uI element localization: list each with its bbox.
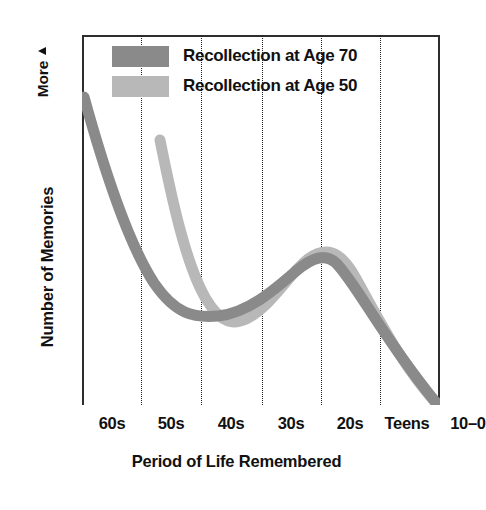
x-tick-40s: 40s (218, 414, 245, 433)
legend-label-age-50: Recollection at Age 50 (183, 76, 357, 96)
x-tick-60s: 60s (99, 414, 126, 433)
x-tick-10-0: 10–0 (450, 414, 486, 433)
series-line-recollection-age-70 (84, 97, 438, 405)
legend-item-age-50: Recollection at Age 50 (112, 73, 357, 99)
x-tick-teens: Teens (385, 414, 430, 433)
legend-item-age-70: Recollection at Age 70 (112, 43, 357, 69)
legend: Recollection at Age 70 Recollection at A… (112, 43, 357, 99)
arrow-up-icon (38, 47, 46, 55)
x-axis-title: Period of Life Remembered (0, 452, 473, 471)
y-axis-more-text: More (34, 61, 52, 97)
x-axis-tick-labels: 60s 50s 40s 30s 20s Teens 10–0 (82, 414, 440, 438)
y-axis-title: Number of Memories (35, 142, 59, 392)
legend-swatch-dark-icon (112, 46, 169, 67)
y-axis-more-label: More (31, 27, 55, 117)
x-tick-20s: 20s (337, 414, 364, 433)
legend-swatch-light-icon (112, 76, 169, 97)
plot-area: Recollection at Age 70 Recollection at A… (82, 35, 440, 405)
x-tick-30s: 30s (278, 414, 305, 433)
legend-label-age-70: Recollection at Age 70 (183, 46, 357, 66)
x-tick-50s: 50s (158, 414, 185, 433)
